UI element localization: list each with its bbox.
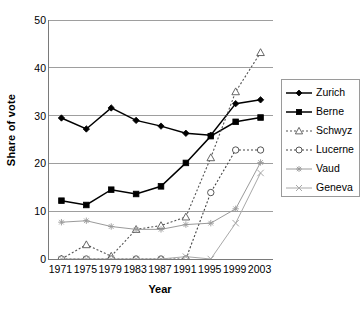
- data-point-marker: [257, 159, 263, 165]
- data-point-marker: [108, 223, 114, 229]
- data-point-marker: [208, 220, 214, 226]
- data-point-marker: [133, 191, 139, 197]
- data-point-marker: [232, 147, 238, 153]
- legend-item-zurich[interactable]: Zurich: [282, 83, 359, 102]
- data-point-marker: [58, 219, 64, 225]
- data-point-marker: [158, 184, 164, 190]
- data-point-marker: [183, 221, 189, 227]
- data-point-marker: [183, 130, 189, 136]
- series-zurich: [58, 97, 264, 139]
- data-point-marker: [257, 49, 265, 56]
- data-point-marker: [232, 88, 240, 95]
- data-point-marker: [208, 189, 214, 195]
- plot-svg: [49, 20, 273, 259]
- data-point-marker: [257, 170, 263, 176]
- legend-label: Lucerne: [313, 144, 354, 155]
- legend-item-vaud[interactable]: Vaud: [282, 159, 359, 178]
- series-line: [61, 118, 260, 205]
- legend-label: Geneva: [313, 182, 353, 193]
- data-point-marker: [296, 166, 302, 172]
- y-tick-label: 40: [20, 63, 46, 73]
- x-axis-label: Year: [48, 283, 272, 295]
- x-tick-label: 2003: [243, 264, 277, 275]
- data-point-marker: [232, 206, 238, 212]
- data-point-marker: [295, 127, 302, 133]
- data-point-marker: [257, 97, 263, 103]
- plot-area: [48, 20, 273, 260]
- y-axis-ticks: 01020304050: [18, 0, 46, 310]
- legend-swatch-geneva-icon: [285, 181, 313, 195]
- legend-label: Schwyz: [313, 125, 352, 136]
- legend-item-geneva[interactable]: Geneva: [282, 178, 359, 197]
- data-point-marker: [208, 133, 214, 139]
- data-point-marker: [232, 220, 238, 226]
- data-point-marker: [207, 154, 215, 161]
- legend-swatch-vaud-icon: [285, 162, 313, 176]
- data-point-marker: [296, 147, 302, 153]
- data-point-marker: [133, 117, 139, 123]
- data-point-marker: [158, 123, 164, 129]
- data-point-marker: [296, 109, 301, 114]
- legend-item-lucerne[interactable]: Lucerne: [282, 140, 359, 159]
- data-point-marker: [182, 213, 190, 220]
- legend-label: Vaud: [313, 163, 340, 174]
- legend-item-berne[interactable]: Berne: [282, 102, 359, 121]
- data-point-marker: [158, 226, 164, 232]
- series-line: [61, 150, 260, 259]
- legend-item-schwyz[interactable]: Schwyz: [282, 121, 359, 140]
- data-point-marker: [183, 160, 189, 166]
- data-point-marker: [296, 90, 302, 96]
- legend-swatch-lucerne-icon: [285, 143, 313, 157]
- line-chart: Share of vote 01020304050 19711975197919…: [0, 0, 363, 310]
- legend-swatch-schwyz-icon: [285, 124, 313, 138]
- data-point-marker: [257, 147, 263, 153]
- legend-label: Zurich: [313, 87, 345, 98]
- legend-swatch-berne-icon: [285, 105, 313, 119]
- y-tick-label: 30: [20, 111, 46, 121]
- data-point-marker: [84, 202, 90, 208]
- data-point-marker: [83, 241, 91, 248]
- y-tick-label: 20: [20, 158, 46, 168]
- data-point-marker: [133, 226, 139, 232]
- y-tick-label: 50: [20, 15, 46, 25]
- y-tick-label: 0: [20, 254, 46, 264]
- data-point-marker: [108, 187, 114, 193]
- data-point-marker: [258, 115, 264, 121]
- series-line: [61, 162, 260, 229]
- legend: ZurichBerneSchwyzLucerneVaudGeneva: [281, 79, 360, 197]
- data-point-marker: [233, 119, 239, 125]
- data-point-marker: [59, 198, 65, 204]
- y-tick-label: 10: [20, 206, 46, 216]
- legend-swatch-zurich-icon: [285, 86, 313, 100]
- y-axis-label: Share of vote: [5, 94, 17, 166]
- legend-label: Berne: [313, 106, 344, 117]
- data-point-marker: [83, 218, 89, 224]
